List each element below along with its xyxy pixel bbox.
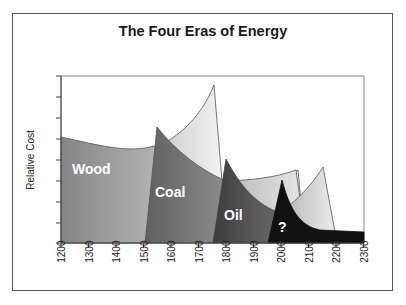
x-tick-label: 1300 — [83, 241, 94, 271]
x-tick-label: 1700 — [193, 241, 204, 271]
x-tick-label: 2000 — [276, 241, 287, 271]
x-tick-label: 2300 — [358, 241, 369, 271]
x-tick-label: 1400 — [111, 241, 122, 271]
label-wood: Wood — [72, 161, 111, 177]
wood-area — [61, 137, 160, 243]
x-tick-label: 1500 — [138, 241, 149, 271]
label-oil: Oil — [224, 207, 243, 223]
x-tick-label: 1200 — [56, 241, 67, 271]
label-unknown: ? — [278, 219, 287, 235]
x-tick-label: 1800 — [221, 241, 232, 271]
x-tick-label: 1900 — [248, 241, 259, 271]
y-ticks — [56, 76, 61, 243]
x-tick-label: 1600 — [166, 241, 177, 271]
x-ticks — [61, 243, 364, 248]
x-tick-label: 2200 — [331, 241, 342, 271]
label-coal: Coal — [155, 184, 185, 200]
x-tick-label: 2100 — [303, 241, 314, 271]
